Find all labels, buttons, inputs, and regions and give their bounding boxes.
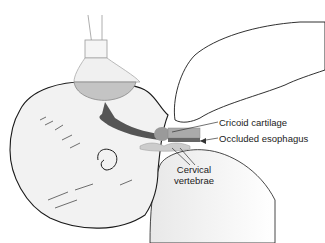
label-cervical-vertebrae: Cervical vertebrae <box>172 164 216 186</box>
arrow-head <box>200 138 206 144</box>
infant-head-shape <box>10 82 168 228</box>
label-occluded-esophagus: Occluded esophagus <box>219 133 308 144</box>
label-cervical-line1: Cervical <box>172 164 216 175</box>
vertebrae-shape <box>140 143 190 151</box>
mask-rim <box>74 58 140 82</box>
label-cervical-line2: vertebrae <box>172 175 216 186</box>
figure-canvas: Cricoid cartilage Occluded esophagus Cer… <box>0 0 325 243</box>
cricoid-shape <box>154 127 170 141</box>
esophagus-shape <box>168 138 200 142</box>
hand-shape <box>174 22 325 122</box>
label-cricoid-cartilage: Cricoid cartilage <box>219 117 287 128</box>
bag-connector <box>85 40 107 58</box>
